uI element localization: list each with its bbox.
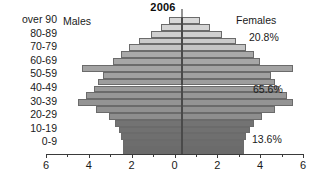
bar-male [82,65,181,72]
x-axis-minor-tick [239,154,240,157]
x-axis-tick [260,154,261,158]
y-axis-label: 30-39 [0,95,58,109]
bar-female [182,65,293,72]
bar-female [182,127,251,134]
x-axis-tick-label: 4 [250,159,270,171]
bar-female [182,24,210,31]
bar-female [182,38,237,45]
annotation-youth-share: 13.6% [252,133,282,145]
bar-female [182,106,275,113]
y-axis-label: 80-89 [0,27,58,41]
bar-male [86,92,181,99]
y-axis-label: 10-19 [0,122,58,136]
bar-male [94,86,181,93]
x-axis-tick [175,154,176,158]
bar-female [182,113,263,120]
bar-male [121,51,182,58]
y-axis-label: 60-69 [0,54,58,68]
x-axis-tick [46,154,47,158]
x-axis-tick-label: 6 [36,159,56,171]
bar-female [182,58,261,65]
x-axis-tick [303,154,304,158]
bar-female [182,44,247,51]
bar-male [151,31,181,38]
x-axis-tick-label: 4 [79,159,99,171]
bar-male [98,79,181,86]
bar-male [119,127,182,134]
bar-female [182,31,222,38]
bar-male [121,133,182,140]
y-axis-label: 70-79 [0,40,58,54]
y-axis-label: 0-9 [0,135,58,149]
chart-title: 2006 [1,1,324,13]
bar-male [96,106,181,113]
x-axis-minor-tick [282,154,283,157]
bar-male [103,72,182,79]
bar-male [161,24,181,31]
x-axis-tick [89,154,90,158]
y-axis-label: 20-29 [0,108,58,122]
x-axis-tick-label: 2 [207,159,227,171]
y-axis-label: over 90 [0,13,58,27]
x-axis-tick [132,154,133,158]
bar-male [109,113,182,120]
population-pyramid-chart: 2006 Males Females over 9080-8970-7960-6… [0,0,324,180]
x-axis-minor-tick [153,154,154,157]
bar-male [139,38,182,45]
bar-male [123,140,182,147]
bar-female [182,147,245,154]
x-axis-tick-label: 0 [165,159,185,171]
bar-female [182,133,247,140]
y-axis-labels: over 9080-8970-7960-6950-5940-4930-3920-… [0,13,58,149]
x-axis-minor-tick [110,154,111,157]
bar-female [182,51,255,58]
x-axis-minor-tick [67,154,68,157]
bar-female [182,72,271,79]
bar-female [182,17,200,24]
bar-female [182,140,245,147]
x-axis-minor-tick [196,154,197,157]
bar-male [129,44,182,51]
x-axis-tick-label: 6 [293,159,313,171]
annotation-elderly-share: 20.8% [249,31,279,43]
y-axis-label: 40-49 [0,81,58,95]
bar-female [182,120,255,127]
bar-male [115,120,182,127]
x-axis-tick [217,154,218,158]
x-axis-tick-label: 2 [122,159,142,171]
annotation-workingage-share: 65.6% [253,83,283,95]
bar-male [169,17,181,24]
bar-male [123,147,182,154]
bar-male [113,58,182,65]
bar-female [182,99,293,106]
y-axis-label: 50-59 [0,67,58,81]
bar-male [78,99,181,106]
zero-axis-line [181,9,182,154]
